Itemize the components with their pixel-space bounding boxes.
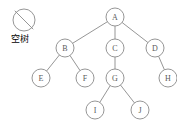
tree-nodes: ABCDEFGHIJ [32,8,177,119]
tree-node-i[interactable]: I [86,101,104,119]
tree-node-f[interactable]: F [76,69,94,87]
tree-node-e[interactable]: E [32,69,50,87]
tree-node-c[interactable]: C [106,39,124,57]
node-label-g: G [112,74,118,83]
node-label-h: H [165,74,171,83]
tree-node-j[interactable]: J [131,101,149,119]
tree-edge-d-h [159,56,165,69]
node-label-c: C [112,44,117,53]
tree-edge-b-f [70,55,80,70]
empty-set-legend [13,9,35,31]
tree-edge-g-j [121,85,135,103]
tree-node-b[interactable]: B [56,39,74,57]
node-label-i: I [94,106,97,115]
tree-node-a[interactable]: A [106,8,124,26]
node-label-d: D [152,44,158,53]
tree-edge-b-e [47,55,60,71]
node-label-b: B [62,44,67,53]
tree-edge-a-d [122,23,148,43]
tree-edge-g-i [100,86,110,103]
tree-node-h[interactable]: H [159,69,177,87]
tree-edges [47,22,165,103]
tree-node-d[interactable]: D [146,39,164,57]
node-label-j: J [138,106,141,115]
tree-edge-a-b [73,22,108,44]
tree-diagram: ABCDEFGHIJ [0,0,177,133]
node-label-f: F [83,74,88,83]
node-label-a: A [112,13,118,22]
tree-node-g[interactable]: G [106,69,124,87]
node-label-e: E [39,74,44,83]
empty-set-caption: 空树 [11,32,29,45]
diagram-canvas: ABCDEFGHIJ 空树 [0,0,177,133]
